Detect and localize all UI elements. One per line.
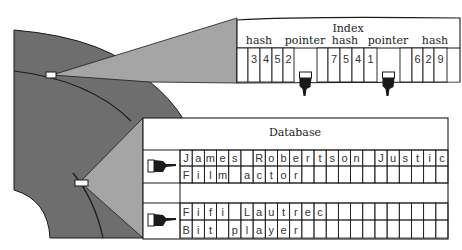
database-char: a — [195, 152, 202, 164]
index-hash-digit: 5 — [343, 53, 349, 65]
database-char: s — [330, 152, 336, 164]
pointing-hand-down-icon — [300, 72, 312, 96]
database-char: r — [306, 152, 310, 164]
index-hash-digit: 4 — [355, 53, 361, 65]
database-char: o — [341, 152, 347, 164]
database-char: a — [256, 206, 263, 218]
database-char: c — [439, 152, 445, 164]
read-head-icon — [75, 180, 88, 186]
database-char: u — [268, 206, 274, 218]
database-char: t — [270, 169, 273, 181]
index-column-label: hash — [246, 34, 272, 47]
index-hash-digit: 4 — [263, 53, 269, 65]
index-hash-digit: 3 — [251, 53, 257, 65]
database-char: e — [293, 152, 299, 164]
pointing-hand-down-icon — [383, 72, 395, 96]
index-hash-digit: 6 — [414, 53, 420, 65]
database-char: i — [429, 152, 431, 164]
database-char: l — [246, 224, 248, 236]
index-hash-digit: 7 — [331, 53, 337, 65]
database-char: r — [294, 169, 298, 181]
index-hash-cell — [237, 48, 248, 82]
index-column-label: hash — [332, 34, 358, 47]
database-char: r — [294, 224, 298, 236]
index-table: Index hashpointerhashpointerhash 3452754… — [237, 17, 460, 96]
database-char: L — [244, 206, 250, 218]
database-char: F — [183, 169, 190, 181]
database-char: m — [206, 152, 215, 164]
database-char: e — [280, 224, 286, 236]
database-char: s — [403, 152, 409, 164]
index-column-label: pointer — [368, 34, 409, 47]
database-char: t — [319, 152, 322, 164]
database-char: c — [256, 169, 262, 181]
database-char: a — [244, 169, 251, 181]
database-char: J — [378, 152, 384, 164]
database-char: s — [232, 152, 238, 164]
database-char: t — [282, 206, 285, 218]
database-char: p — [232, 224, 238, 236]
database-char: B — [182, 224, 189, 236]
read-head-icon — [46, 72, 56, 78]
database-char: l — [209, 169, 211, 181]
index-hash-digit: 2 — [425, 53, 431, 65]
index-column-label: pointer — [285, 34, 326, 47]
database-char: i — [197, 206, 199, 218]
index-hash-cell — [317, 48, 328, 82]
database-char: o — [280, 169, 286, 181]
database-char: u — [390, 152, 396, 164]
database-title: Database — [269, 126, 321, 139]
database-char: F — [183, 206, 190, 218]
database-char: i — [221, 206, 223, 218]
database-char: y — [269, 224, 275, 236]
database-char: o — [268, 152, 274, 164]
database-char: i — [197, 224, 199, 236]
database-char: a — [256, 224, 263, 236]
index-hash-digit: 2 — [285, 53, 291, 65]
disk-index-database-diagram: Index hashpointerhashpointerhash 3452754… — [0, 0, 462, 250]
database-char: b — [280, 152, 286, 164]
database-char: c — [317, 206, 323, 218]
database-char: m — [218, 169, 227, 181]
database-char: i — [197, 169, 199, 181]
index-hash-digit: 5 — [274, 53, 280, 65]
database-char: J — [183, 152, 189, 164]
database-char: e — [220, 152, 226, 164]
database-char: r — [294, 206, 298, 218]
database-char: e — [305, 206, 311, 218]
database-char: R — [255, 152, 263, 164]
database-char: n — [354, 152, 360, 164]
index-hash-cell — [400, 48, 412, 82]
database-table: Database JamesRobertsonJusticFilmactorFi… — [143, 118, 448, 239]
index-hash-digit: 1 — [367, 53, 373, 65]
index-hash-digit: 9 — [437, 53, 443, 65]
database-char: t — [209, 224, 212, 236]
index-column-label: hash — [422, 34, 448, 47]
database-char: t — [416, 152, 419, 164]
